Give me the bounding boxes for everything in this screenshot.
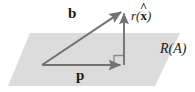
vector-r-close-paren: ) — [147, 8, 151, 23]
figure-container: b p r(^x) R(A) — [0, 0, 195, 92]
vector-r-label: r(^x) — [131, 9, 151, 22]
plane-label: R(A) — [160, 42, 186, 56]
hat-accent-icon: ^ — [140, 1, 147, 13]
vector-r-variable: ^x — [140, 9, 147, 22]
vector-b-label: b — [68, 6, 76, 21]
range-of-A-plane — [8, 33, 180, 86]
vector-p-label: p — [76, 68, 84, 83]
